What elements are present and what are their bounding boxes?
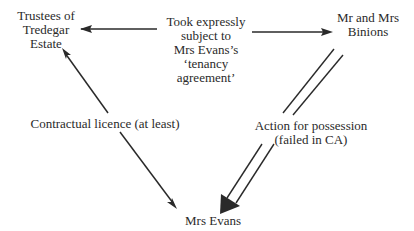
arrow-lower-segment: [120, 132, 173, 203]
node-line: Binions: [322, 25, 414, 39]
node-line: Mr and Mrs: [322, 11, 414, 25]
label-line: Mrs Evans’s: [158, 43, 254, 57]
label-line: Contractual licence (at least): [20, 117, 190, 131]
arrow-upper-segment: [65, 53, 108, 113]
large-arrowhead-icon: [220, 194, 240, 214]
label-line: subject to: [158, 29, 254, 43]
double-line-b-lower: [236, 144, 274, 203]
node-line: Estate: [5, 37, 87, 51]
label-contractual-licence: Contractual licence (at least): [20, 117, 190, 131]
node-mr-and-mrs-binions: Mr and Mrs Binions: [322, 11, 414, 39]
node-line: Tredegar: [5, 23, 87, 37]
label-action-for-possession: Action for possession (failed in CA): [246, 119, 376, 147]
label-line: (failed in CA): [246, 133, 376, 147]
relationship-diagram: Trustees of Tredegar Estate Mr and Mrs B…: [0, 0, 414, 231]
node-trustees-of-tredegar-estate: Trustees of Tredegar Estate: [5, 9, 87, 51]
label-line: agreement’: [158, 71, 254, 85]
label-line: Action for possession: [246, 119, 376, 133]
label-line: ‘tenancy: [158, 57, 254, 71]
double-line-b-upper: [293, 55, 343, 115]
label-took-expressly: Took expressly subject to Mrs Evans’s ‘t…: [158, 15, 254, 85]
label-line: Took expressly: [158, 15, 254, 29]
node-line: Trustees of: [5, 9, 87, 23]
arrowhead-down-icon: [167, 198, 177, 209]
double-line-a-upper: [283, 49, 334, 113]
node-mrs-evans: Mrs Evans: [170, 214, 256, 228]
node-line: Mrs Evans: [170, 214, 256, 228]
